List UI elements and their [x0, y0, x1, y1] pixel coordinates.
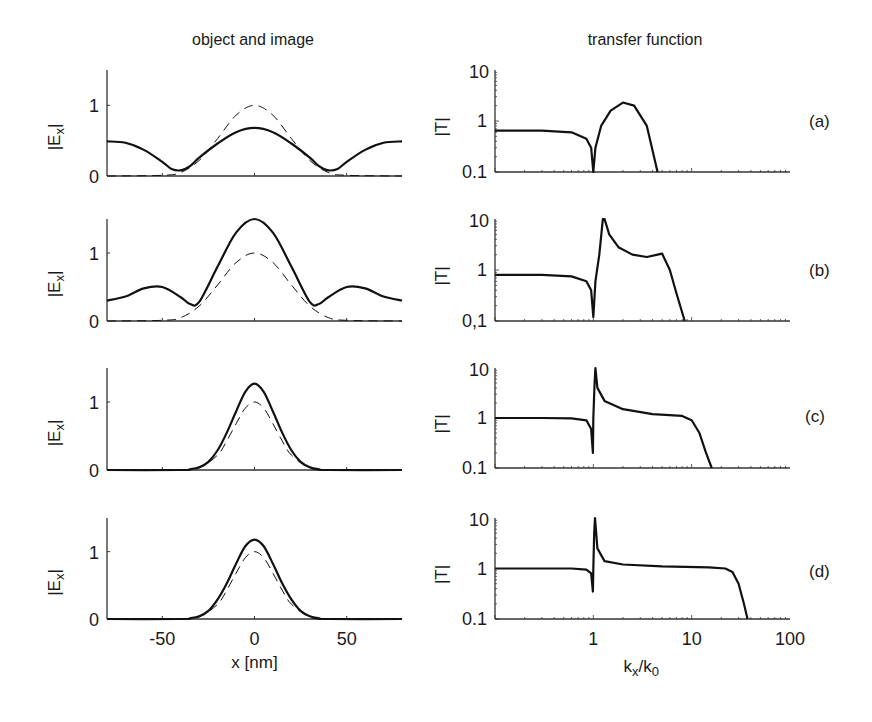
k-tick-label: 10	[682, 629, 702, 649]
transfer-curve	[495, 368, 712, 468]
svg-text:1: 1	[89, 543, 99, 563]
figure-canvas: 01|Ex|0.1110|T|01|Ex|0,1110|T|01|Ex|0.11…	[0, 0, 872, 722]
image-curve	[107, 219, 402, 306]
svg-text:|T|: |T|	[432, 117, 451, 136]
object-image-plot-b: 01	[89, 219, 402, 332]
object-image-plot-a: 01	[89, 70, 402, 187]
transfer-function-plot-c: 0.1110	[462, 360, 790, 478]
transfer-curve	[495, 103, 658, 172]
object-image-plot-c: 01	[89, 368, 402, 481]
svg-text:|Ex|: |Ex|	[45, 420, 67, 447]
svg-text:1: 1	[477, 111, 487, 131]
x-tick-label: 50	[337, 629, 357, 649]
svg-text:10: 10	[469, 510, 489, 530]
transfer-function-plot-a: 0.1110	[462, 62, 790, 182]
svg-text:|T|: |T|	[432, 414, 451, 433]
transfer-curve	[495, 518, 748, 619]
svg-text:1: 1	[477, 559, 487, 579]
svg-text:0.1: 0.1	[462, 162, 487, 182]
svg-text:1: 1	[477, 260, 487, 280]
t-axis-label: |T|	[432, 266, 451, 285]
svg-text:1: 1	[89, 96, 99, 116]
svg-text:0: 0	[89, 167, 99, 187]
svg-text:|Ex|: |Ex|	[45, 271, 67, 298]
svg-text:0: 0	[89, 312, 99, 332]
svg-text:10: 10	[469, 360, 489, 380]
object-curve	[107, 552, 402, 619]
x-axis-label: x [nm]	[231, 653, 277, 672]
t-axis-label: |T|	[432, 117, 451, 136]
svg-text:|T|: |T|	[432, 266, 451, 285]
ex-axis-label: |Ex|	[45, 271, 67, 298]
svg-text:0.1: 0.1	[462, 458, 487, 478]
transfer-function-plot-b: 0,1110	[462, 211, 790, 331]
object-image-plot-d: 01	[89, 518, 402, 630]
image-curve	[107, 384, 402, 470]
svg-text:10: 10	[469, 62, 489, 82]
svg-text:kx/k0: kx/k0	[624, 657, 659, 679]
svg-text:0,1: 0,1	[462, 311, 487, 331]
svg-text:|Ex|: |Ex|	[45, 124, 67, 151]
svg-text:0.1: 0.1	[462, 609, 487, 629]
transfer-function-plot-d: 0.1110	[462, 510, 790, 629]
svg-text:0: 0	[89, 461, 99, 481]
ex-axis-label: |Ex|	[45, 420, 67, 447]
svg-text:x [nm]: x [nm]	[231, 653, 277, 672]
svg-text:10: 10	[469, 211, 489, 231]
object-curve	[107, 402, 402, 470]
svg-text:1: 1	[477, 408, 487, 428]
svg-text:1: 1	[89, 244, 99, 264]
object-curve	[107, 105, 402, 176]
ex-axis-label: |Ex|	[45, 569, 67, 596]
ex-axis-label: |Ex|	[45, 124, 67, 151]
k-tick-label: 1	[588, 629, 598, 649]
svg-text:1: 1	[89, 393, 99, 413]
svg-text:|Ex|: |Ex|	[45, 569, 67, 596]
svg-text:0: 0	[89, 610, 99, 630]
kx-axis-label: kx/k0	[624, 657, 659, 679]
x-tick-label: -50	[149, 629, 175, 649]
t-axis-label: |T|	[432, 414, 451, 433]
image-curve	[107, 128, 402, 171]
x-tick-label: 0	[249, 629, 259, 649]
svg-text:|T|: |T|	[432, 565, 451, 584]
t-axis-label: |T|	[432, 565, 451, 584]
transfer-curve	[495, 219, 685, 321]
k-tick-label: 100	[775, 629, 805, 649]
